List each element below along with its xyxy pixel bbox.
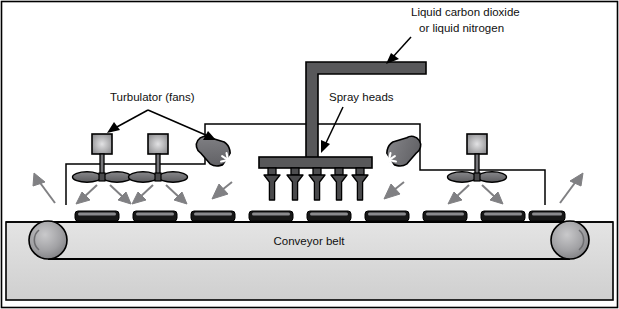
- conveyor-belt: Conveyor belt: [6, 221, 613, 300]
- belt-products: [75, 211, 565, 221]
- cryogen-label-line1: Liquid carbon dioxide: [411, 6, 520, 18]
- product-item: [133, 211, 177, 221]
- diagram-canvas: Conveyor belt: [0, 0, 619, 309]
- product-item: [481, 211, 525, 221]
- product-item: [423, 211, 467, 221]
- product-item: [365, 211, 409, 221]
- cryogen-label-line2: or liquid nitrogen: [419, 22, 504, 34]
- product-item: [307, 211, 351, 221]
- cryogenic-freezer-diagram: Conveyor belt: [0, 0, 619, 309]
- right-roller: [551, 221, 589, 259]
- conveyor-belt-label: Conveyor belt: [274, 235, 346, 247]
- product-item: [249, 211, 293, 221]
- left-roller: [29, 221, 67, 259]
- turbulator-label: Turbulator (fans): [110, 91, 195, 103]
- spray-heads-label: Spray heads: [329, 91, 394, 103]
- product-item: [529, 211, 565, 221]
- product-item: [191, 211, 235, 221]
- product-item: [75, 211, 119, 221]
- spray-manifold: [259, 157, 372, 168]
